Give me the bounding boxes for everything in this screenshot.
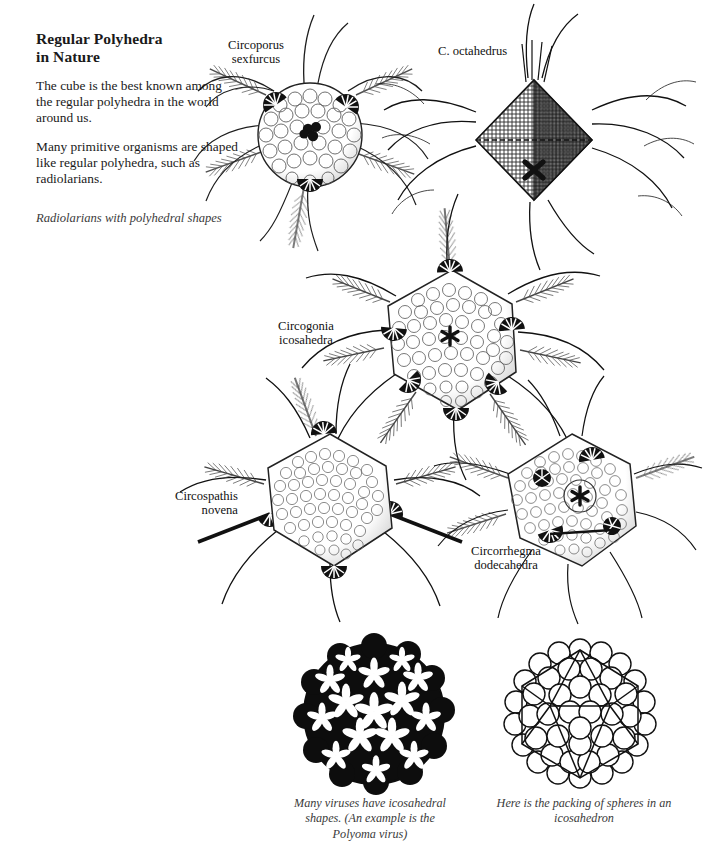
specimen-figure-circoporus [194,15,428,251]
caption-packing-line-1: Here is the packing of spheres in an [478,796,690,811]
book-page: Regular Polyhedra in Nature The cube is … [0,0,715,854]
specimen-figure-octahedrus [376,4,696,270]
caption-packing-line-2: icosahedron [478,811,690,826]
radiolarian-illustration-group [0,0,715,640]
caption-virus: Many viruses have icosahedral shapes. (A… [270,796,470,842]
sphere-packing-figure [500,640,660,790]
octahedron-body [476,80,592,200]
packed-spheres [504,639,656,788]
virus-capsid-figure [296,640,452,788]
specimen-figure-circospathis [180,364,480,622]
specimen-figure-circorrhegma [434,376,702,624]
caption-virus-line-3: Polyoma virus) [270,827,470,842]
caption-virus-line-2: shapes. (An example is the [270,811,470,826]
specimen-figure-circogonia [302,194,604,480]
caption-packing: Here is the packing of spheres in an ico… [478,796,690,827]
caption-virus-line-1: Many viruses have icosahedral [270,796,470,811]
